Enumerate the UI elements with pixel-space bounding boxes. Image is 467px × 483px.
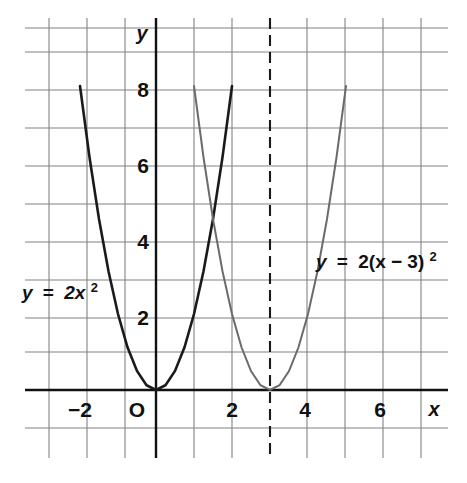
y-tick-label-2: 2 — [137, 306, 149, 329]
parabola-graph-svg: 8 6 4 2 −2 O 2 4 6 x y y = 2x 2 y = 2(x … — [0, 0, 467, 483]
x-axis-name-label: x — [427, 398, 440, 420]
y-axis-name-label: y — [135, 22, 148, 44]
annotation-curve2-exponent: 2 — [430, 249, 437, 264]
x-tick-label-6: 6 — [374, 398, 386, 421]
origin-label: O — [129, 398, 145, 421]
annotation-curve2-lhs: y — [315, 251, 328, 272]
annotation-curve1-rhs: 2x — [63, 282, 87, 303]
x-tick-label-minus-2: −2 — [68, 398, 92, 421]
annotation-curve1-equals: = — [43, 282, 54, 303]
annotation-curve2-equals: = — [337, 251, 348, 272]
annotation-curve1-lhs: y — [21, 282, 34, 303]
y-tick-label-8: 8 — [137, 78, 149, 101]
annotation-curve2-rhs: 2(x − 3) — [358, 251, 424, 272]
graph-figure: 8 6 4 2 −2 O 2 4 6 x y y = 2x 2 y = 2(x … — [0, 0, 467, 483]
x-tick-label-4: 4 — [299, 398, 311, 421]
x-tick-label-2: 2 — [226, 398, 238, 421]
annotation-curve1-exponent: 2 — [91, 280, 98, 295]
y-tick-label-4: 4 — [137, 230, 149, 253]
y-tick-label-6: 6 — [137, 154, 149, 177]
